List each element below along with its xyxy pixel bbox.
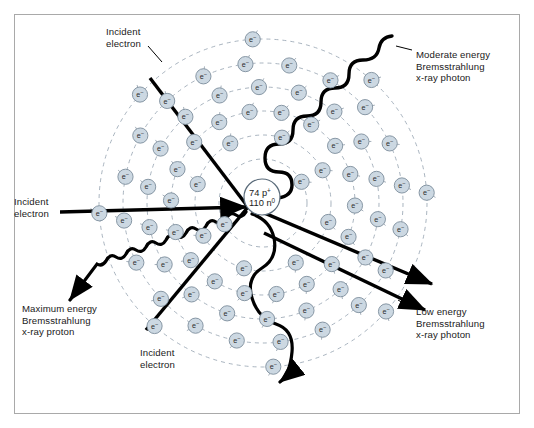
electron-particle: e− [187,134,202,149]
electron-particle: e− [327,104,342,119]
electron-particle: e− [369,171,384,186]
electron-particle: e− [160,93,175,108]
electron-particle: e− [327,138,342,153]
atomic-nucleus: 74 p+ 110 n0 [244,179,280,215]
electron-particle: e− [393,222,408,237]
electron-particle: e− [333,282,348,297]
electron-particle: e− [220,306,235,321]
leader-moderate [396,46,412,50]
electron-particle: e− [153,141,168,156]
electron-particle: e− [251,79,266,94]
electron-particle: e− [196,69,211,84]
electron-particle: e− [207,274,222,289]
electron-particle: e− [364,72,379,87]
electron-particle: e− [168,224,183,239]
scattered-electron-upper-right [250,207,432,284]
electron-particle: e− [394,178,409,193]
electron-particle: e− [163,193,178,208]
electron-particle: e− [294,174,309,189]
electron-particle: e− [291,85,306,100]
electron-particle: e− [217,217,232,232]
electron-particle: e− [419,185,434,200]
electron-particle: e− [245,32,260,47]
electron-particle: e− [141,179,156,194]
electron-particle: e− [282,58,297,73]
electron-particle: e− [153,291,168,306]
electron-particle: e− [188,318,203,333]
incident-electron-top-label: Incident electron [106,26,141,49]
electron-particle: e− [212,114,227,129]
electron-particle: e− [323,73,338,88]
electron-particle: e− [184,287,199,302]
electron-particle: e− [324,256,339,271]
electron-particle: e− [341,229,356,244]
electron-particle: e− [237,286,252,301]
electron-particle: e− [142,220,157,235]
electron-particle: e− [259,311,274,326]
leader-incident-top [148,46,162,62]
electron-particle: e− [212,88,227,103]
electron-particle: e− [273,334,288,349]
electron-particle: e− [347,198,362,213]
electron-particle: e− [238,57,253,72]
electron-particle: e− [315,163,330,178]
electron-particle: e− [321,214,336,229]
bremsstrahlung-diagram: e−e−e−e−e−e−e−e−e−e−e−e−e−e−e−e−e−e−e−e−… [0,0,534,428]
electron-particle: e− [133,128,148,143]
electron-particle: e− [315,322,330,337]
electron-particle: e− [354,134,369,149]
electron-particle: e− [223,136,238,151]
electron-particle: e− [274,130,289,145]
electron-particle: e− [378,304,393,319]
electron-particle: e− [118,169,133,184]
electron-particle: e− [183,253,198,268]
electron-particle: e− [117,213,132,228]
electron-particle: e− [343,166,358,181]
electron-particle: e− [132,87,147,102]
electron-particle: e− [242,104,257,119]
electron-particle: e− [351,297,366,312]
electron-particle: e− [288,255,303,270]
electron-particle: e− [229,333,244,348]
electron-particle: e− [170,162,185,177]
electron-particle: e− [147,318,162,333]
electron-particle: e− [378,263,393,278]
electron-particle: e− [129,255,144,270]
electron-particle: e− [190,176,205,191]
electron-particle: e− [382,136,397,151]
incident-electron-left-path [60,207,246,212]
electron-particle: e− [157,257,172,272]
electron-particle: e− [266,359,281,374]
electron-particle: e− [178,109,193,124]
moderate-energy-photon-label: Moderate energy Bremsstrahlung x-ray pho… [416,49,490,84]
electron-particle: e− [274,105,289,120]
electron-particle: e− [236,261,251,276]
electron-particle: e− [196,228,211,243]
electron-particle: e− [92,206,107,221]
low-energy-photon-label: Low energy Bremsstrahlung x-ray photon [416,306,485,341]
electron-particle: e− [357,100,372,115]
electron-particle: e− [304,117,319,132]
maximum-energy-photon-label: Maximum energy Bremsstrahlung x-ray prot… [22,303,97,338]
incident-electron-left-label: Incident electron [14,196,49,219]
electron-particle: e− [269,286,284,301]
electron-particle: e− [299,303,314,318]
electron-particle: e− [358,250,373,265]
incident-electron-bottom-label: Incident electron [140,347,175,370]
electron-particle: e− [370,212,385,227]
electron-particle: e− [299,276,314,291]
